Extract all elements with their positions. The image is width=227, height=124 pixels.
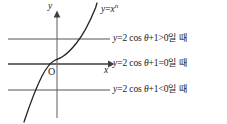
label-zero-expr: 2 cos bbox=[122, 58, 141, 68]
x-axis-label: x bbox=[104, 66, 108, 76]
label-positive-expr: 2 cos bbox=[122, 33, 141, 43]
label-positive-plus-one: +1 bbox=[149, 33, 159, 43]
label-negative-korean: 일 때 bbox=[168, 84, 187, 94]
y-axis-label: y bbox=[48, 2, 52, 12]
label-negative-expr: 2 cos bbox=[122, 84, 141, 94]
label-line-zero: y=2 cos θ+1=0일 때 bbox=[113, 59, 187, 69]
label-line-negative: y=2 cos θ+1<0일 때 bbox=[113, 85, 187, 95]
label-zero-korean: 일 때 bbox=[168, 58, 187, 68]
power-function-curve bbox=[24, 3, 97, 122]
label-zero-plus-one: +1 bbox=[149, 58, 159, 68]
label-positive-korean: 일 때 bbox=[168, 33, 187, 43]
origin-label: O bbox=[48, 67, 55, 77]
curve-label-exponent: n bbox=[115, 2, 119, 10]
math-figure: y x O y=xn y=2 cos θ+1>0일 때 y=2 cos θ+1=… bbox=[0, 0, 227, 124]
label-negative-plus-one: +1 bbox=[149, 84, 159, 94]
y-axis-arrowhead bbox=[54, 11, 61, 18]
curve-label: y=xn bbox=[101, 3, 118, 15]
label-line-positive: y=2 cos θ+1>0일 때 bbox=[113, 34, 187, 44]
